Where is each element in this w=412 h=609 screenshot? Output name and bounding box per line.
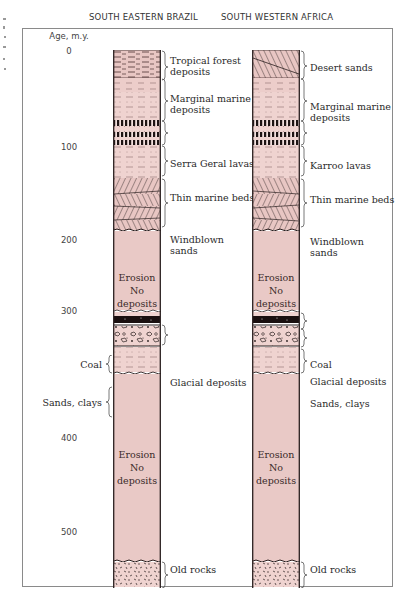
brazil-label-marginal-marine: Marginal marine deposits [170, 93, 251, 115]
axis-title: Age, m.y. [39, 31, 99, 41]
brazil-column [113, 50, 161, 588]
header-south-eastern-brazil: SOUTH EASTERN BRAZIL [89, 12, 198, 22]
erosion-label: Erosion [113, 448, 161, 461]
erosion-label: No [113, 461, 161, 474]
africa-label-marginal-marine: Marginal marine deposits [310, 101, 391, 123]
label-line: deposits [310, 112, 391, 123]
erosion-label: Erosion [252, 271, 300, 284]
age-tick-500: 500 [39, 527, 99, 537]
erosion-label: deposits [252, 297, 300, 310]
africa-column [252, 50, 300, 588]
brazil-label-windblown-sands: Windblown sands [170, 234, 224, 256]
layer-coal [253, 316, 299, 323]
layer-marginal-marine [114, 92, 160, 120]
layer-glacial-deposits [114, 326, 160, 346]
brazil-erosion-2-text: Erosion No deposits [113, 448, 161, 487]
layer-sands-clays [114, 347, 160, 372]
label-line: sands [170, 245, 224, 256]
africa-erosion-2-text: Erosion No deposits [252, 448, 300, 487]
erosion-label: Erosion [113, 271, 161, 284]
age-tick-200: 200 [39, 235, 99, 245]
africa-label-thin-marine-beds: Thin marine beds [310, 194, 394, 205]
label-line: Marginal marine [310, 101, 391, 112]
erosion-label: No [252, 461, 300, 474]
age-tick-300: 300 [39, 306, 99, 316]
label-line: Marginal marine [170, 93, 251, 104]
brazil-label-sands-clays: Sands, clays [30, 397, 102, 408]
africa-label-coal: Coal [310, 359, 332, 370]
brazil-label-thin-marine-beds: Thin marine beds [170, 192, 254, 203]
age-tick-0: 0 [39, 46, 99, 56]
layer-thin-marine-beds [253, 145, 299, 178]
africa-label-windblown-sands: Windblown sands [310, 236, 364, 258]
label-line: deposits [170, 66, 241, 77]
africa-label-glacial-deposits: Glacial deposits [310, 376, 386, 387]
erosion-label: deposits [252, 474, 300, 487]
layer-coal [114, 316, 160, 323]
brazil-label-tropical-forest: Tropical forest deposits [170, 55, 241, 77]
erosion-label: No [113, 284, 161, 297]
header-south-western-africa: SOUTH WESTERN AFRICA [221, 12, 333, 22]
label-line: Windblown [310, 236, 364, 247]
layer-tropical-forest [114, 50, 160, 78]
layer-sands-clays [253, 347, 299, 372]
layer-karroo-lavas [253, 120, 299, 126]
label-line: Tropical forest [170, 55, 241, 66]
erosion-label: deposits [113, 297, 161, 310]
age-tick-400: 400 [39, 433, 99, 443]
africa-label-old-rocks: Old rocks [310, 564, 356, 575]
layer-old-rocks [114, 562, 160, 587]
label-line: sands [310, 247, 364, 258]
africa-label-sands-clays: Sands, clays [310, 398, 370, 409]
layer-glacial-deposits [253, 326, 299, 346]
label-line: Windblown [170, 234, 224, 245]
brazil-left-brace-group [104, 355, 114, 425]
africa-label-desert-sands: Desert sands [310, 62, 373, 73]
margin-artifact [2, 16, 8, 76]
layer-thin-marine-beds [114, 145, 160, 178]
erosion-label: Erosion [252, 448, 300, 461]
layer-marginal-marine [253, 92, 299, 120]
layer-serra-geral-lavas [114, 120, 160, 126]
brazil-erosion-1-text: Erosion No deposits [113, 271, 161, 310]
brazil-label-glacial-deposits: Glacial deposits [170, 377, 246, 388]
brazil-label-serra-geral-lavas: Serra Geral lavas [170, 158, 254, 169]
brazil-label-coal: Coal [60, 359, 102, 370]
age-tick-100: 100 [39, 142, 99, 152]
erosion-label: No [252, 284, 300, 297]
label-line: deposits [170, 104, 251, 115]
africa-label-karroo-lavas: Karroo lavas [310, 160, 371, 171]
africa-erosion-1-text: Erosion No deposits [252, 271, 300, 310]
africa-brace-group [300, 48, 310, 588]
brazil-brace-group [161, 48, 171, 588]
brazil-label-old-rocks: Old rocks [170, 564, 216, 575]
erosion-label: deposits [113, 474, 161, 487]
layer-old-rocks [253, 562, 299, 587]
